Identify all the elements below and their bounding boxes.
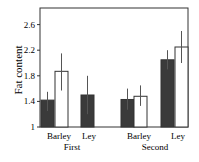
y-tick-label: 1.4	[24, 96, 36, 106]
x-label-first-barley: Barley	[47, 131, 71, 141]
y-axis-ticks: 11.41.82.22.6	[24, 20, 40, 132]
group-label-second: Second	[142, 142, 169, 152]
y-tick-label: 2.2	[24, 45, 35, 55]
x-label-second-barley: Barley	[127, 131, 151, 141]
x-label-first-ley: Ley	[82, 131, 96, 141]
y-tick-label: 1	[31, 122, 36, 132]
group-label-first: First	[64, 142, 81, 152]
x-label-second-ley: Ley	[171, 131, 185, 141]
bars	[41, 31, 188, 127]
y-tick-label: 1.8	[24, 71, 36, 81]
fat-content-bar-chart: 11.41.82.22.6 Fat content Barley Ley Bar…	[0, 0, 199, 162]
y-axis-label: Fat content	[12, 45, 24, 94]
bar	[161, 60, 174, 127]
y-tick-label: 2.6	[24, 20, 36, 30]
